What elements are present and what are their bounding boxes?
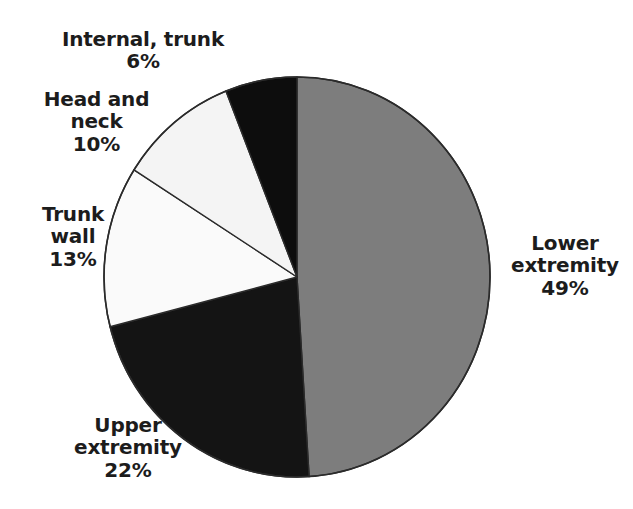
pie-label-internal-trunk: Internal, trunk 6% (28, 28, 258, 73)
pie-chart-figure: Internal, trunk 6% Head and neck 10% Tru… (0, 0, 633, 509)
pie-label-upper-extremity: Upper extremity 22% (38, 414, 218, 481)
pie-slice-lower-extremity (297, 77, 490, 477)
pie-label-trunk-wall: Trunk wall 13% (8, 203, 138, 270)
pie-label-head-and-neck: Head and neck 10% (14, 88, 179, 155)
pie-label-lower-extremity: Lower extremity 49% (500, 232, 630, 299)
